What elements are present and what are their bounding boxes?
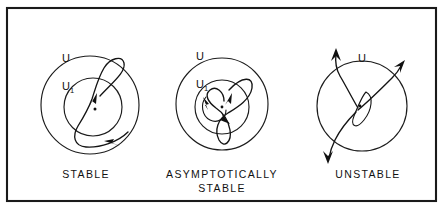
outer-set-label-unstable: U: [358, 52, 366, 64]
panel-stable: U U 1 STABLE: [41, 52, 139, 180]
caption-stable: STABLE: [62, 168, 110, 180]
trajectory-escape-unstable-3: [329, 112, 356, 158]
caption-unstable: UNSTABLE: [335, 168, 400, 180]
trajectory-escape-unstable-2: [358, 66, 401, 110]
equilibrium-loop-unstable: [353, 92, 371, 126]
lyapunov-stability-figure: U U 1 STABLE U U 1 ASYM: [0, 0, 446, 216]
trajectory-inward-spiral-asymptotic: [207, 79, 252, 144]
equilibrium-point-asymptotic: [221, 106, 224, 109]
svg-text:U: U: [196, 78, 204, 90]
trajectory-arrow-stable-1: [87, 93, 97, 110]
caption-asymptotically-stable-line1: ASYMPTOTICALLY: [166, 168, 278, 180]
equilibrium-point-stable: [94, 108, 97, 111]
inner-set-label-asymptotic: U 1: [196, 78, 208, 93]
outer-set-label-stable: U: [62, 52, 70, 64]
panel-asymptotically-stable: U U 1 ASYMPTOTICALLY STABLE: [166, 50, 278, 194]
caption-asymptotically-stable-line2: STABLE: [198, 182, 246, 194]
svg-text:U: U: [62, 80, 70, 92]
figure-canvas: U U 1 STABLE U U 1 ASYM: [0, 0, 446, 216]
trajectory-arrow-unstable-2: [394, 60, 405, 73]
svg-text:1: 1: [70, 86, 74, 95]
panel-unstable: U UNSTABLE: [317, 48, 407, 180]
outer-set-label-asymptotic: U: [196, 50, 204, 62]
outer-region-circle-asymptotic: [176, 58, 268, 150]
trajectory-arrow-unstable-3: [323, 151, 333, 164]
svg-text:1: 1: [204, 84, 208, 93]
trajectory-arrow-asymptotic-2: [225, 93, 232, 105]
